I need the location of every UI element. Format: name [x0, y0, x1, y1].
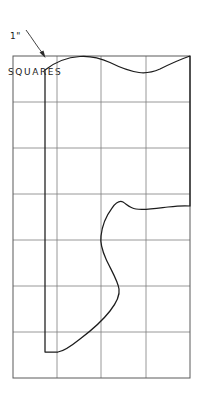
grid-border-rect: [13, 56, 190, 378]
pattern-figure-svg: [0, 0, 203, 401]
grid-vertical-lines: [57, 56, 146, 378]
pattern-diagram: 1" SQUARES: [0, 0, 203, 401]
pattern-piece-outline: [45, 56, 190, 352]
grid-horizontal-lines: [13, 102, 190, 332]
leader-arrow-icon: [26, 30, 46, 58]
